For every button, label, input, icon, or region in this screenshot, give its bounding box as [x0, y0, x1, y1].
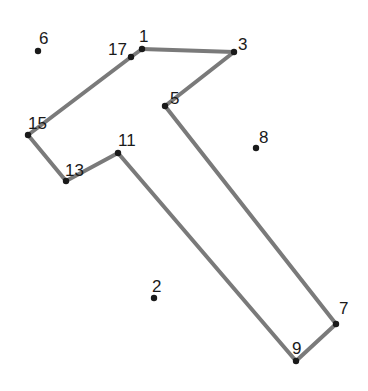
- dot-1: [139, 46, 145, 52]
- dot-label-1: 1: [139, 27, 148, 46]
- dot-label-9: 9: [292, 339, 301, 358]
- dot-label-11: 11: [118, 131, 136, 150]
- line-segment: [165, 106, 336, 324]
- line-segment: [118, 153, 296, 361]
- dot-17: [128, 54, 134, 60]
- dot-label-15: 15: [28, 114, 47, 133]
- dot-label-13: 13: [65, 161, 84, 180]
- dot-9: [293, 358, 299, 364]
- dot-label-7: 7: [339, 299, 348, 318]
- dot-label-17: 17: [108, 40, 127, 59]
- dot-5: [162, 103, 168, 109]
- line-segment: [28, 135, 66, 181]
- dot-label-5: 5: [170, 89, 179, 108]
- connecting-lines: [28, 49, 336, 361]
- dot-6: [35, 48, 41, 54]
- dot-label-3: 3: [238, 35, 247, 54]
- line-segment: [142, 49, 234, 52]
- dot-puzzle-canvas: 1235678911131517: [0, 0, 368, 391]
- line-segment: [296, 324, 336, 361]
- dot-label-2: 2: [152, 277, 161, 296]
- dot-labels: 1235678911131517: [28, 27, 348, 358]
- dot-3: [231, 49, 237, 55]
- dot-label-8: 8: [259, 128, 268, 147]
- dot-7: [333, 321, 339, 327]
- dot-11: [115, 150, 121, 156]
- dot-label-6: 6: [39, 29, 48, 48]
